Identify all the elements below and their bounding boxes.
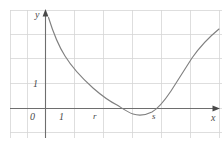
origin-label-0: 0	[30, 112, 35, 122]
graph-canvas	[0, 0, 224, 145]
x-intercept-label-s: s	[152, 112, 156, 121]
graph-figure: y x 1 0 1 r s	[0, 0, 224, 145]
y-axis-label: y	[35, 10, 39, 20]
x-axis-tick-label-1: 1	[59, 112, 64, 122]
y-axis-tick-label-1: 1	[33, 79, 38, 89]
x-intercept-label-r: r	[93, 112, 97, 121]
x-axis-label: x	[211, 113, 215, 123]
